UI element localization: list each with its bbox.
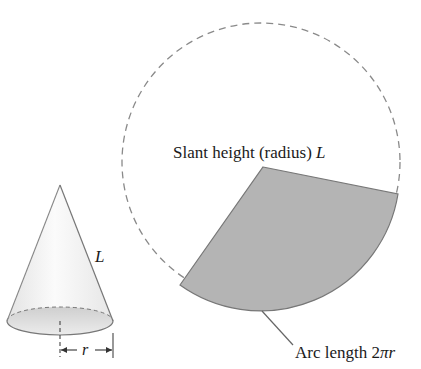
radius-label: r xyxy=(82,341,89,358)
shaded-sector xyxy=(180,167,398,311)
arc-length-leader xyxy=(262,311,293,345)
cone-sector-diagram: Slant height (radius) L Arc length 2πr L… xyxy=(0,0,421,369)
cone xyxy=(7,185,113,358)
arc-length-label: Arc length 2πr xyxy=(295,343,396,362)
cone-slant-label: L xyxy=(94,247,104,266)
slant-height-label: Slant height (radius) L xyxy=(173,143,326,162)
radius-dimension: r xyxy=(61,341,112,358)
